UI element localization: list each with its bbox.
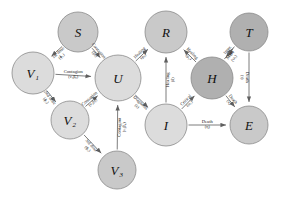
node-u[interactable]: U [95, 55, 141, 101]
edge-label-i-r: Healing(δ) [165, 72, 175, 87]
edge-label-v1-u: Contagion(ν₁β₀) [64, 69, 84, 79]
edge-label-v2-v3: 3rd dose(ɸ₃) [81, 138, 99, 156]
edge-label-param: (η) [205, 124, 211, 129]
node-i[interactable]: I [145, 104, 187, 146]
node-h[interactable]: H [191, 57, 233, 99]
edge-label-v3-u: Contagion(ν₃β₀) [117, 117, 127, 137]
node-label-s: S [75, 25, 82, 40]
node-t[interactable]: T [230, 13, 268, 51]
node-label-u: U [113, 71, 124, 86]
node-label-h: H [206, 71, 217, 86]
edge-label-u-i: Diagnosis(ε) [129, 94, 149, 114]
compartmental-model-graph: SV1V2V3URIHTE 1st dose(ɸ₁)Contagion(β₀)C… [0, 0, 283, 203]
node-label-e: E [244, 118, 253, 133]
node-label-t: T [245, 25, 253, 40]
edge-label-t-e: Death(τ) [240, 72, 250, 84]
node-sublabel-v1: 1 [35, 74, 39, 82]
edge-label-u-r: Healing(μ₀) [132, 45, 150, 63]
edge-label-i-e: Death(η) [202, 119, 214, 129]
node-label-r: R [161, 25, 170, 40]
edge-label-i-h: Critical(ω₁) [179, 93, 196, 110]
diagram-canvas: SV1V2V3URIHTE 1st dose(ɸ₁)Contagion(β₀)C… [0, 0, 283, 203]
node-r[interactable]: R [145, 11, 187, 53]
edge-label-param: (ν₁β₀) [68, 74, 79, 79]
node-e[interactable]: E [230, 106, 268, 144]
edge-label-param: (δ) [170, 77, 175, 82]
edge-label-name: Diagnosis [132, 94, 149, 111]
edge-label-param: (ν₃β₀) [122, 122, 127, 133]
edge-label-param: (τ) [240, 75, 245, 80]
node-sublabel-v3: 3 [118, 171, 123, 179]
node-v1[interactable]: V1 [12, 52, 54, 94]
node-v3[interactable]: V3 [98, 151, 136, 189]
edge-label-h-r: Healing(μ₁) [182, 46, 200, 64]
node-label-i: I [163, 118, 169, 133]
node-sublabel-v2: 2 [72, 121, 76, 129]
